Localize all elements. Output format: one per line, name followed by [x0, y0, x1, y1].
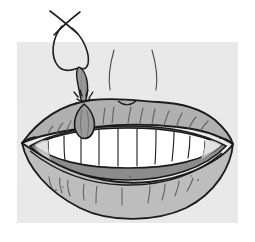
tooth-extraction-illustration: [0, 0, 255, 242]
illustration-stage: Tooth extraction with string: [0, 0, 255, 242]
